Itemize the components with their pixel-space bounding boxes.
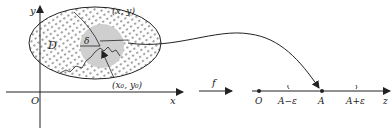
delta-label: δ [84,36,89,46]
z-origin-label: O [255,96,263,106]
left-bound-mark [288,85,289,89]
point-a-label: A [317,96,325,106]
mapping-label: f [211,77,218,88]
point-a-dot [320,89,324,93]
center-point-label: (x₀, y₀) [112,80,143,90]
right-bound-label: A+ε [345,96,365,106]
y-axis-label: y [29,5,36,16]
right-bound-mark [356,85,357,89]
x-axis-label: x [170,95,176,106]
origin-label: O [31,95,39,106]
region-label: D [47,39,57,52]
point-xy-label: (x, y) [112,6,135,16]
diagram-canvas: y x O D (x, y) (x₀, y₀) δ f O A−ε A A+ε … [0,0,392,133]
left-bound-label: A−ε [277,96,297,106]
z-origin-dot [257,89,261,93]
z-axis-label: z [382,96,388,106]
